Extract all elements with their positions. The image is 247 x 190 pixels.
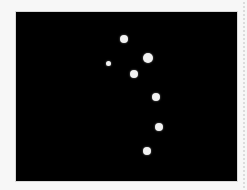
light-dot — [155, 123, 163, 131]
light-dot — [143, 147, 151, 155]
dotted-divider — [243, 2, 245, 188]
light-dot — [106, 61, 111, 66]
star-field-image — [16, 12, 237, 181]
light-dot — [120, 35, 128, 43]
light-dot — [130, 70, 138, 78]
light-dot — [152, 93, 160, 101]
light-dot — [143, 53, 153, 63]
